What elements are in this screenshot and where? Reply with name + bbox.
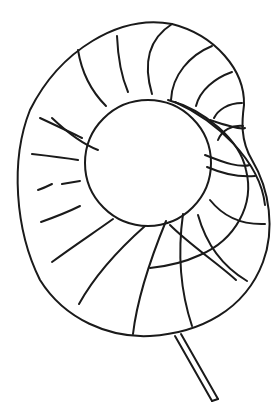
rib [40, 118, 82, 138]
stalk-tip [212, 399, 218, 401]
inner-aperture-circle [85, 100, 211, 226]
rib [180, 214, 192, 326]
rib [133, 221, 166, 334]
outer-shell-outline [18, 22, 270, 336]
stalk-right [181, 334, 218, 399]
stalk-left [175, 336, 212, 401]
rib [62, 181, 80, 184]
rib [79, 226, 145, 304]
rib [38, 184, 52, 190]
rib [41, 206, 80, 222]
rib [214, 103, 242, 118]
rib [32, 154, 78, 160]
rib [210, 200, 265, 224]
rib [171, 46, 212, 100]
rib [198, 215, 247, 281]
shell-svg [0, 0, 279, 420]
shell-drawing [0, 0, 279, 420]
rib [52, 219, 113, 262]
rib [78, 50, 106, 106]
rib [117, 36, 128, 92]
inner-whorl-arc-2 [175, 102, 265, 205]
rib [196, 72, 232, 106]
rib [148, 24, 172, 94]
